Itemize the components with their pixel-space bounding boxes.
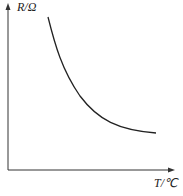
y-axis-arrow-icon xyxy=(6,3,11,10)
x-axis-label: T/℃ xyxy=(154,176,177,191)
x-axis-arrow-icon xyxy=(168,168,175,173)
chart-plot xyxy=(0,0,183,196)
y-axis-label: R/Ω xyxy=(17,0,36,15)
resistance-curve xyxy=(48,17,156,133)
